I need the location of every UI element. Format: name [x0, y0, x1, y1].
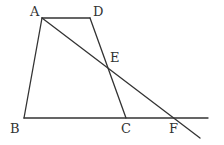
point-label-B: B [10, 121, 20, 136]
geometry-diagram: ADBCEF [0, 0, 224, 145]
point-label-C: C [121, 121, 131, 136]
segment-AF-extended [42, 18, 200, 138]
point-label-F: F [169, 121, 178, 136]
point-label-A: A [29, 4, 40, 19]
point-label-D: D [93, 4, 103, 19]
diagram-canvas: ADBCEF [0, 0, 224, 145]
point-label-E: E [110, 50, 120, 65]
segment-AB [24, 18, 42, 118]
